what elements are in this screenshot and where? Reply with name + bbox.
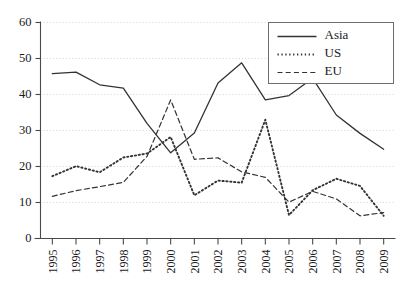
x-tick-label: 2001 (188, 250, 202, 274)
plot-series-group (52, 63, 383, 216)
legend-label-us: US (325, 45, 342, 60)
chart-legend: AsiaUSEU (269, 23, 394, 84)
y-tick-label: 10 (19, 195, 32, 209)
legend-label-eu: EU (325, 63, 343, 78)
x-axis-tick-labels: 1995199619971998199920002001200220032004… (46, 250, 391, 274)
x-tick-label: 2006 (306, 250, 320, 274)
x-tick-label: 2000 (164, 250, 178, 274)
series-line-us (52, 120, 383, 216)
x-tick-label: 2003 (235, 250, 249, 274)
y-tick-label: 50 (19, 51, 32, 65)
x-tick-label: 1996 (69, 250, 83, 274)
x-tick-label: 2007 (330, 250, 344, 274)
y-tick-label: 60 (19, 15, 32, 29)
y-tick-label: 40 (19, 87, 32, 101)
legend-label-asia: Asia (325, 27, 349, 42)
x-tick-label: 1999 (140, 250, 154, 274)
y-tick-label: 0 (25, 231, 31, 245)
x-tick-label: 2008 (353, 250, 367, 274)
y-tick-label: 30 (19, 123, 32, 137)
x-tick-label: 2002 (211, 250, 225, 274)
y-axis-tick-labels: 0102030405060 (19, 15, 32, 245)
y-tick-label: 20 (19, 159, 32, 173)
chart-canvas: 0102030405060 19951996199719981999200020… (0, 0, 413, 292)
x-tick-label: 2005 (282, 250, 296, 274)
x-tick-label: 2009 (377, 250, 391, 274)
series-line-eu (52, 100, 383, 216)
line-chart-figure: 0102030405060 19951996199719981999200020… (0, 0, 413, 292)
x-tick-label: 1998 (117, 250, 131, 274)
x-tick-label: 1997 (93, 250, 107, 274)
x-tick-label: 2004 (259, 250, 273, 274)
x-tick-label: 1995 (46, 250, 60, 274)
